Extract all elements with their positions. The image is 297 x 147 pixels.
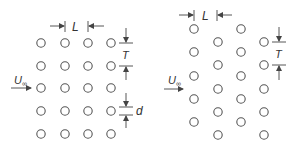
tube-circle xyxy=(107,62,115,70)
inline-diameter-d-dimension xyxy=(119,93,133,128)
tube-circle xyxy=(214,61,222,69)
inline-tube-bank xyxy=(37,39,115,138)
tube-circle xyxy=(61,84,69,92)
inline-label-T: T xyxy=(122,49,130,61)
tube-circle xyxy=(107,84,115,92)
tube-circle xyxy=(260,108,268,116)
tube-circle xyxy=(190,48,198,56)
tube-circle xyxy=(84,39,92,47)
tube-circle xyxy=(260,85,268,93)
tube-circle xyxy=(107,130,115,138)
tube-circle xyxy=(107,107,115,115)
tube-circle xyxy=(37,130,45,138)
tube-circle xyxy=(237,95,245,103)
tube-circle xyxy=(61,130,69,138)
staggered-label-L: L xyxy=(202,9,209,23)
staggered-label-T: T xyxy=(275,48,283,60)
tube-circle xyxy=(214,38,222,46)
tube-circle xyxy=(214,85,222,93)
tube-circle xyxy=(237,25,245,33)
tube-circle xyxy=(214,108,222,116)
tube-circle xyxy=(37,39,45,47)
inline-label-U: U∞ xyxy=(14,74,27,87)
tube-circle xyxy=(37,62,45,70)
tube-circle xyxy=(61,62,69,70)
tube-circle xyxy=(237,48,245,56)
staggered-tube-bank xyxy=(190,25,268,139)
inline-label-L: L xyxy=(72,20,79,34)
tube-circle xyxy=(260,131,268,139)
tube-circle xyxy=(84,84,92,92)
tube-circle xyxy=(190,72,198,80)
tube-circle xyxy=(84,62,92,70)
tube-circle xyxy=(260,38,268,46)
tube-circle xyxy=(84,130,92,138)
staggered-label-U: U∞ xyxy=(168,74,181,87)
tube-circle xyxy=(190,25,198,33)
tube-circle xyxy=(61,39,69,47)
tube-circle xyxy=(84,107,92,115)
tube-circle xyxy=(260,61,268,69)
tube-circle xyxy=(37,84,45,92)
tube-circle xyxy=(61,107,69,115)
tube-circle xyxy=(107,39,115,47)
tube-circle xyxy=(190,118,198,126)
inline-label-d: d xyxy=(136,104,143,118)
tube-circle xyxy=(237,72,245,80)
tube-bank-diagram: L T d U∞ L T U∞ xyxy=(0,0,297,147)
tube-circle xyxy=(190,95,198,103)
tube-circle xyxy=(37,107,45,115)
tube-circle xyxy=(237,118,245,126)
tube-circle xyxy=(214,131,222,139)
